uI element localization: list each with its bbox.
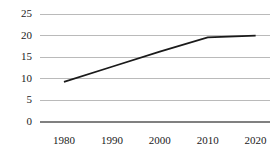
y-tick-label: 0 (6, 116, 32, 127)
y-tick-label: 15 (6, 51, 32, 62)
x-tick-label: 2010 (186, 135, 230, 146)
x-tick-label: 1990 (90, 135, 134, 146)
gridlines (40, 14, 270, 122)
x-tick-label: 2000 (138, 135, 182, 146)
y-tick-label: 20 (6, 30, 32, 41)
x-tick-label: 1980 (42, 135, 86, 146)
line-chart: 2520151050 19801990200020102020 (0, 0, 279, 158)
data-series-line (64, 36, 256, 82)
series-polyline (64, 36, 256, 82)
y-tick-label: 25 (6, 8, 32, 19)
y-tick-label: 10 (6, 73, 32, 84)
y-tick-label: 5 (6, 94, 32, 105)
x-tick-label: 2020 (234, 135, 278, 146)
